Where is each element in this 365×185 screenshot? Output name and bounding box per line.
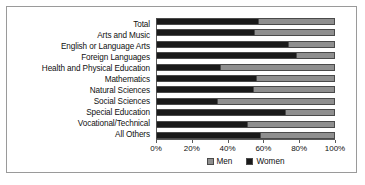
bar-segment-women (157, 99, 218, 104)
legend-item-men: Men (207, 157, 233, 166)
bar-group (156, 18, 335, 139)
bar-row (156, 86, 335, 93)
bar-row (156, 29, 335, 36)
bar-row (156, 41, 335, 48)
bar-row (156, 75, 335, 82)
category-label: Foreign Languages (9, 53, 150, 62)
legend-swatch-icon (207, 158, 214, 165)
bar-row (156, 121, 335, 128)
category-label: Mathematics (9, 75, 150, 84)
plot-area: 0%20%40%60%80%100% (156, 18, 335, 142)
axis-tick (228, 140, 229, 143)
legend-swatch-icon (246, 158, 253, 165)
category-label: Social Sciences (9, 97, 150, 106)
axis-tick (156, 140, 157, 143)
bar-row (156, 18, 335, 25)
bar-row (156, 109, 335, 116)
category-label: Vocational/Technical (9, 119, 150, 128)
tick-label: 80% (287, 144, 311, 154)
bar-segment-women (157, 87, 254, 92)
bar-segment-women (157, 76, 257, 81)
category-label: Special Education (9, 108, 150, 117)
bar-segment-women (157, 30, 255, 35)
legend-item-women: Women (246, 157, 284, 166)
tick-label: 40% (216, 144, 240, 154)
chart-frame: Total Arts and Music English or Language… (6, 6, 357, 173)
legend-label: Women (256, 157, 284, 166)
bar-segment-women (157, 42, 289, 47)
axis-tick (335, 140, 336, 143)
bar-segment-women (157, 110, 286, 115)
category-label: Health and Physical Education (9, 64, 150, 73)
bar-row (156, 132, 335, 139)
axis-tick (299, 140, 300, 143)
category-label: English or Language Arts (9, 42, 150, 51)
legend-label: Men (217, 157, 233, 166)
bar-row (156, 98, 335, 105)
axis-tick (192, 140, 193, 143)
category-label: Arts and Music (9, 31, 150, 40)
axis-tick (263, 140, 264, 143)
bar-segment-women (157, 65, 221, 70)
category-label: All Others (9, 130, 150, 139)
tick-label: 100% (323, 144, 347, 154)
value-axis-tick-labels: 0%20%40%60%80%100% (144, 144, 347, 155)
tick-label: 0% (144, 144, 168, 154)
bar-segment-women (157, 53, 297, 58)
chart-plot-wrapper: Total Arts and Music English or Language… (7, 7, 358, 174)
tick-label: 60% (251, 144, 275, 154)
axis-tick-marks (156, 140, 335, 143)
category-label: Natural Sciences (9, 86, 150, 95)
category-axis-labels: Total Arts and Music English or Language… (9, 20, 150, 139)
category-label: Total (9, 20, 150, 29)
bar-row (156, 52, 335, 59)
bar-row (156, 64, 335, 71)
tick-label: 20% (180, 144, 204, 154)
bar-segment-women (157, 19, 259, 24)
chart-legend: Men Women (156, 155, 335, 167)
bar-segment-women (157, 133, 261, 138)
bar-segment-women (157, 122, 248, 127)
